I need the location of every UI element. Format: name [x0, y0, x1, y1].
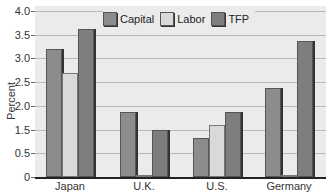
y-axis-label: Percent: [5, 82, 17, 120]
y-tick-mark: [31, 35, 35, 36]
legend-swatch-capital: [103, 12, 117, 26]
y-tick-mark: [31, 130, 35, 131]
legend-item-labor: Labor: [160, 12, 205, 26]
x-tick-label: Japan: [55, 180, 85, 192]
y-tick-mark: [31, 58, 35, 59]
y-tick-label: 3.0: [15, 52, 30, 64]
y-tick-mark: [31, 82, 35, 83]
y-tick-label: 3.5: [15, 29, 30, 41]
x-tick-label: U.K.: [133, 180, 154, 192]
y-tick-label: 2.0: [15, 100, 30, 112]
legend: Capital Labor TFP: [103, 10, 255, 28]
bar-labor-japan: [62, 73, 78, 177]
bar-tfp-japan: [78, 29, 94, 177]
bar-capital-germany: [265, 88, 281, 177]
x-tick-label: Germany: [266, 180, 311, 192]
legend-item-capital: Capital: [103, 12, 154, 26]
legend-item-tfp: TFP: [211, 12, 249, 26]
bar-tfp-uk: [152, 130, 168, 177]
bar-capital-japan: [46, 49, 62, 177]
legend-swatch-tfp: [211, 12, 225, 26]
legend-label: Capital: [120, 13, 154, 25]
legend-label: TFP: [228, 13, 249, 25]
x-axis-line: [35, 177, 326, 179]
y-tick-mark: [31, 106, 35, 107]
legend-label: Labor: [177, 13, 205, 25]
bar-capital-uk: [120, 112, 136, 177]
bar-capital-us: [193, 138, 209, 177]
y-tick-mark: [31, 11, 35, 12]
y-tick-label: 2.5: [15, 76, 30, 88]
legend-swatch-labor: [160, 12, 174, 26]
bar-labor-us: [209, 125, 225, 177]
y-tick-label: 0.5: [15, 147, 30, 159]
y-tick-mark: [31, 153, 35, 154]
bar-chart: 4.03.53.02.52.01.50.50 JapanU.K.U.S.Germ…: [0, 0, 326, 196]
bar-tfp-us: [225, 112, 241, 177]
bar-tfp-germany: [297, 41, 313, 177]
y-tick-label: 0: [24, 171, 30, 183]
y-tick-label: 4.0: [15, 5, 30, 17]
y-tick-label: 1.5: [15, 124, 30, 136]
x-tick-label: U.S.: [206, 180, 227, 192]
